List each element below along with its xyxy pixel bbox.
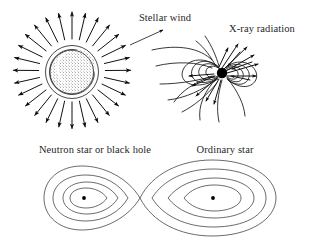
stellar-wind-pointer — [130, 30, 163, 45]
ordinary-star-glyph — [13, 12, 130, 129]
binary-star-diagram: Stellar wind X-ray radiation Neutron sta… — [0, 0, 315, 245]
roche-lobe-panel — [44, 160, 276, 236]
label-xray-radiation: X-ray radiation — [229, 23, 296, 34]
compact-object-glyph — [152, 36, 258, 122]
compact-object-core — [217, 68, 227, 78]
label-ordinary-star: Ordinary star — [197, 144, 254, 155]
right-lobe-contours — [152, 169, 266, 227]
label-stellar-wind: Stellar wind — [139, 12, 192, 23]
label-neutron-star-or-black-hole: Neutron star or black hole — [39, 144, 151, 155]
left-lobe-contours — [53, 175, 128, 221]
left-lobe-center-dot — [82, 196, 86, 200]
right-lobe-center-dot — [211, 196, 215, 200]
magnetic-field-loops — [174, 60, 257, 122]
